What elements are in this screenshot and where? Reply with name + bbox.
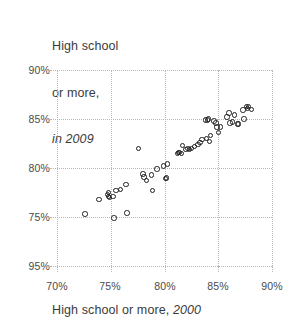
plot-area: [57, 70, 272, 266]
y-tick-label-90: 85%: [10, 113, 50, 125]
tick-stub-x-70: [57, 266, 58, 272]
tick-stub-y-75: [50, 266, 56, 267]
data-point: [249, 107, 254, 112]
data-point: [82, 211, 87, 216]
tick-stub-x-85: [218, 266, 219, 272]
x-tick-label-85: 85%: [198, 280, 238, 292]
y-tick-label-95: 90%: [10, 64, 50, 76]
x-tick-label-90: 90%: [252, 280, 292, 292]
gridline-y-95: [57, 70, 272, 71]
tick-stub-y-90: [50, 119, 56, 120]
tick-stub-x-75: [111, 266, 112, 272]
y-tick-label-85: 80%: [10, 162, 50, 174]
gridline-x-75: [111, 70, 112, 266]
data-point: [236, 121, 241, 126]
data-point: [123, 182, 128, 187]
data-point: [149, 172, 154, 177]
tick-stub-y-80: [50, 217, 56, 218]
data-point: [208, 133, 213, 138]
data-point: [110, 194, 115, 199]
data-point: [226, 110, 231, 115]
x-axis-title: High school or more, 2000: [52, 303, 201, 317]
tick-stub-y-85: [50, 168, 56, 169]
x-axis-title-year: 2000: [173, 303, 201, 317]
y-tick-label-75: 95%: [10, 260, 50, 272]
data-point: [118, 187, 123, 192]
x-tick-label-80: 80%: [145, 280, 185, 292]
tick-stub-y-95: [50, 70, 56, 71]
x-axis-title-text: High school or more,: [52, 303, 173, 317]
data-point: [111, 215, 116, 220]
data-point: [164, 175, 169, 180]
data-point: [241, 116, 246, 121]
data-point: [218, 124, 223, 129]
scatter-plot-figure: High school or more, in 2009 90% 85% 80%…: [0, 0, 308, 331]
x-tick-label-70: 70%: [37, 280, 77, 292]
data-point: [150, 188, 155, 193]
data-point: [232, 112, 237, 117]
tick-stub-x-80: [165, 266, 166, 272]
data-point: [154, 166, 159, 171]
data-point: [124, 210, 129, 215]
y-tick-label-80: 75%: [10, 211, 50, 223]
gridline-x-70: [57, 70, 58, 266]
data-point: [165, 161, 170, 166]
data-point: [136, 146, 141, 151]
data-point: [144, 178, 149, 183]
data-point: [207, 139, 212, 144]
gridline-x-90: [272, 70, 273, 266]
data-point: [216, 130, 221, 135]
tick-stub-x-90: [272, 266, 273, 272]
gridline-x-85: [218, 70, 219, 266]
data-point: [96, 197, 101, 202]
x-tick-label-75: 75%: [90, 280, 130, 292]
gridline-y-80: [57, 217, 272, 218]
y-axis-title-line-1: High school: [52, 39, 118, 55]
gridline-y-90: [57, 119, 272, 120]
